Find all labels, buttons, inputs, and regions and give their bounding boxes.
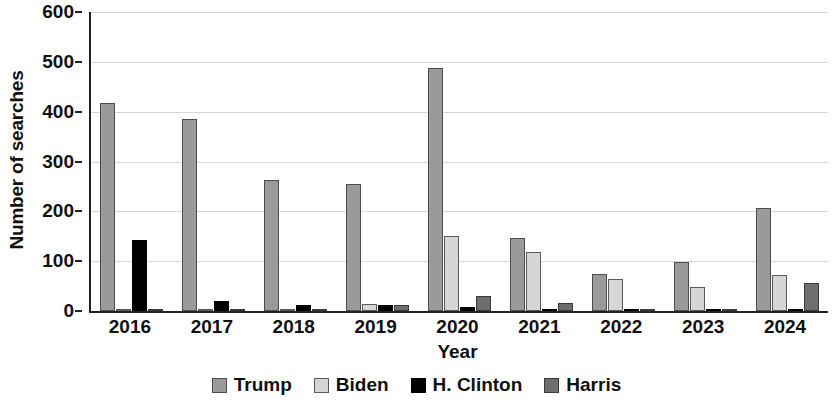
y-tick-label: 400 <box>42 101 74 123</box>
y-tick-mark <box>75 310 82 312</box>
bar-biden-2019 <box>362 304 377 311</box>
bar-trump-2023 <box>674 262 689 311</box>
bar-harris-2018 <box>312 309 327 311</box>
bar-group-2019 <box>337 12 419 311</box>
bar-harris-2022 <box>640 309 655 311</box>
bar-h-clinton-2017 <box>214 301 229 311</box>
bar-groups <box>91 12 828 311</box>
bar-harris-2021 <box>558 303 573 311</box>
bar-group-2018 <box>255 12 337 311</box>
x-axis-title: Year <box>89 341 826 363</box>
y-tick-mark <box>75 111 82 113</box>
legend-swatch-icon <box>212 378 227 393</box>
bar-group-2021 <box>500 12 582 311</box>
bar-group-2023 <box>664 12 746 311</box>
legend-swatch-icon <box>544 378 559 393</box>
bar-harris-2019 <box>394 305 409 311</box>
legend-label: H. Clinton <box>433 374 523 396</box>
bar-trump-2024 <box>756 208 771 311</box>
y-tick-mark <box>75 61 82 63</box>
bar-biden-2023 <box>690 287 705 311</box>
y-tick-mark <box>75 11 82 13</box>
y-tick-label: 200 <box>42 200 74 222</box>
bar-harris-2024 <box>804 283 819 311</box>
bar-trump-2021 <box>510 238 525 311</box>
bar-group-2016 <box>91 12 173 311</box>
bar-biden-2018 <box>280 309 295 311</box>
bar-h-clinton-2024 <box>788 309 803 311</box>
bar-trump-2020 <box>428 68 443 311</box>
legend-swatch-icon <box>411 378 426 393</box>
chart-legend: TrumpBidenH. ClintonHarris <box>0 374 833 396</box>
y-axis-title-text: Number of searches <box>6 70 28 249</box>
bar-harris-2017 <box>230 309 245 311</box>
bar-biden-2022 <box>608 279 623 311</box>
bar-harris-2016 <box>148 309 163 311</box>
legend-item-h-clinton[interactable]: H. Clinton <box>411 374 523 396</box>
y-tick-label: 0 <box>63 300 74 322</box>
bar-h-clinton-2022 <box>624 309 639 311</box>
plot-area <box>89 12 828 313</box>
bar-harris-2023 <box>722 309 737 311</box>
bar-h-clinton-2020 <box>460 307 475 311</box>
bar-trump-2016 <box>100 103 115 311</box>
bar-group-2017 <box>173 12 255 311</box>
bar-chart: Number of searches 0100200300400500600 2… <box>0 0 833 405</box>
bar-biden-2016 <box>116 309 131 311</box>
bar-h-clinton-2019 <box>378 305 393 311</box>
bar-trump-2017 <box>182 119 197 311</box>
bar-harris-2020 <box>476 296 491 311</box>
y-tick-mark <box>75 161 82 163</box>
bar-trump-2018 <box>264 180 279 311</box>
legend-label: Trump <box>234 374 292 396</box>
y-axis-tick-labels: 0100200300400500600 <box>30 0 82 320</box>
legend-item-trump[interactable]: Trump <box>212 374 292 396</box>
y-axis-title: Number of searches <box>0 0 34 320</box>
legend-item-biden[interactable]: Biden <box>314 374 389 396</box>
bar-biden-2021 <box>526 252 541 311</box>
bar-biden-2024 <box>772 275 787 311</box>
legend-label: Biden <box>336 374 389 396</box>
bar-h-clinton-2021 <box>542 309 557 311</box>
y-tick-label: 100 <box>42 250 74 272</box>
y-tick-label: 600 <box>42 1 74 23</box>
legend-item-harris[interactable]: Harris <box>544 374 621 396</box>
legend-swatch-icon <box>314 378 329 393</box>
y-tick-mark <box>75 210 82 212</box>
bar-h-clinton-2018 <box>296 305 311 311</box>
legend-label: Harris <box>566 374 621 396</box>
bar-trump-2022 <box>592 274 607 311</box>
bar-group-2020 <box>419 12 501 311</box>
bar-group-2024 <box>746 12 828 311</box>
bar-biden-2020 <box>444 236 459 311</box>
bar-h-clinton-2016 <box>132 240 147 311</box>
bar-h-clinton-2023 <box>706 309 721 311</box>
bar-trump-2019 <box>346 184 361 311</box>
bar-group-2022 <box>582 12 664 311</box>
y-tick-label: 300 <box>42 151 74 173</box>
bar-biden-2017 <box>198 309 213 311</box>
y-tick-label: 500 <box>42 51 74 73</box>
y-tick-mark <box>75 260 82 262</box>
